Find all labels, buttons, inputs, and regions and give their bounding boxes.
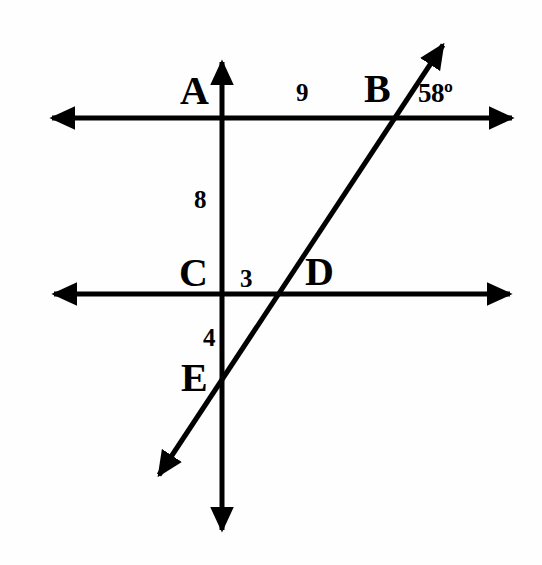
geometry-figure: A B C D E 9 8 3 4 58º (0, 0, 542, 565)
slanted-transversal-line (159, 45, 443, 475)
geometry-diagram-canvas (0, 0, 542, 565)
diagram-lines (52, 45, 512, 530)
